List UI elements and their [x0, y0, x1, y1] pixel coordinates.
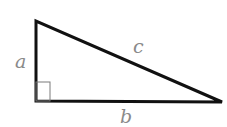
right-triangle-diagram: a c b	[0, 0, 227, 127]
side-b-label: b	[120, 105, 132, 127]
side-a-label: a	[15, 50, 26, 72]
side-c-label: c	[133, 35, 144, 57]
triangle-shape	[36, 21, 222, 102]
right-angle-marker	[36, 82, 50, 101]
